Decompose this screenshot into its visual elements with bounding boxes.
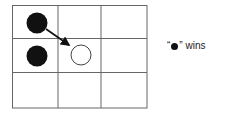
black-stone-r1c0 [27, 46, 48, 67]
game-board [0, 0, 150, 115]
white-stone-r1c1 [71, 45, 91, 65]
black-stone-r0c0 [27, 13, 48, 34]
open-quote: “ [167, 40, 170, 51]
caption-text: wins [183, 40, 206, 51]
result-caption: “” wins [167, 40, 205, 51]
black-dot-icon [171, 43, 178, 50]
